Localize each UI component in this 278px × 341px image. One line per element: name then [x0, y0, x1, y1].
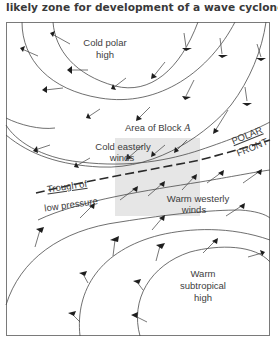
svg-text:high: high: [96, 49, 114, 60]
svg-text:winds: winds: [109, 152, 135, 163]
label-warm-subtropical-high: Warm: [191, 268, 216, 279]
label-warm-westerly: Warm westerly: [167, 193, 230, 204]
svg-text:high: high: [194, 292, 212, 303]
svg-text:winds: winds: [181, 204, 207, 215]
label-trough: Trough of: [46, 178, 88, 195]
label-cold-polar-high: Cold polar: [83, 37, 126, 48]
svg-text:low pressure: low pressure: [44, 195, 99, 213]
svg-text:subtropical: subtropical: [180, 280, 226, 291]
wave-cyclone-diagram: Cold polar high Area of Block A Cold eas…: [0, 0, 278, 341]
label-cold-easterly: Cold easterly: [95, 141, 151, 152]
wind-arrows-subtropical: [35, 227, 265, 322]
label-area-of-block: Area of Block A: [125, 122, 191, 133]
